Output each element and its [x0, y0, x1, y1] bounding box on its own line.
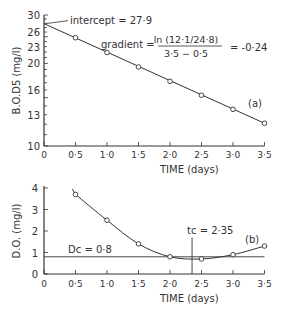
y-tick-label: 2 [32, 226, 38, 237]
gradient-label: gradient = [101, 39, 155, 50]
y-tick-label: 0 [32, 269, 38, 280]
data-point [73, 192, 78, 197]
x-tick-label: 0 [41, 279, 47, 289]
x-axis-label: TIME (days) [159, 293, 219, 304]
y-tick-label: 1 [32, 248, 38, 259]
data-point [105, 218, 110, 223]
data-point [168, 254, 173, 259]
data-point [262, 121, 267, 126]
x-tick-label: 3·5 [257, 279, 271, 289]
x-tick-label: 2·0 [163, 150, 178, 160]
bod-chart: 1013162023263000·51·01·52·02·53·03·5TIME… [11, 10, 272, 175]
x-tick-label: 1·0 [100, 150, 115, 160]
x-tick-label: 1·5 [131, 150, 145, 160]
data-point [199, 257, 204, 262]
x-tick-label: 2·5 [194, 279, 208, 289]
data-point [262, 244, 267, 249]
y-axis-label: D.O. (mg/l) [11, 204, 22, 259]
dc-annotation: Dc = 0·8 [68, 244, 112, 255]
y-tick-label: 26 [27, 27, 40, 38]
x-tick-label: 2·0 [163, 279, 178, 289]
y-tick-label: 16 [27, 85, 40, 96]
x-tick-label: 2·5 [194, 150, 208, 160]
gradient-numerator: ln (12·1/24·8) [154, 34, 219, 45]
y-tick-label: 20 [27, 58, 40, 69]
gradient-result: = -0·24 [230, 42, 267, 53]
x-tick-label: 0 [41, 150, 47, 160]
data-point [231, 252, 236, 257]
y-tick-label: 23 [27, 42, 40, 53]
data-point [168, 79, 173, 84]
data-point [105, 50, 110, 55]
x-tick-label: 3·5 [257, 150, 271, 160]
x-tick-label: 0·5 [68, 279, 82, 289]
y-tick-label: 10 [27, 141, 40, 152]
gradient-denominator: 3·5 − 0·5 [164, 48, 208, 59]
x-axis-label: TIME (days) [159, 164, 219, 175]
data-point [231, 107, 236, 112]
y-tick-label: 3 [32, 205, 38, 216]
x-tick-label: 1·0 [100, 279, 115, 289]
data-point [136, 65, 141, 70]
data-point [73, 35, 78, 40]
panel-label: (a) [248, 98, 262, 109]
x-tick-label: 0·5 [68, 150, 82, 160]
y-tick-label: 4 [32, 183, 38, 194]
y-axis-label: B.O.D5 (mg/l) [11, 46, 22, 114]
x-tick-label: 3·0 [226, 279, 241, 289]
data-point [199, 93, 204, 98]
y-tick-label: 13 [27, 110, 40, 121]
chart-figure: 1013162023263000·51·01·52·02·53·03·5TIME… [0, 0, 283, 316]
intercept-annotation: intercept = 27·9 [70, 15, 152, 26]
tc-annotation: tc = 2·35 [187, 225, 233, 236]
panel-label: (b) [245, 234, 259, 245]
x-tick-label: 3·0 [226, 150, 241, 160]
y-tick-label: 30 [27, 10, 40, 21]
x-tick-label: 1·5 [131, 279, 145, 289]
do-chart: 0123400·51·01·52·02·53·03·5TIME (days)D.… [11, 183, 272, 304]
data-point [136, 242, 141, 247]
